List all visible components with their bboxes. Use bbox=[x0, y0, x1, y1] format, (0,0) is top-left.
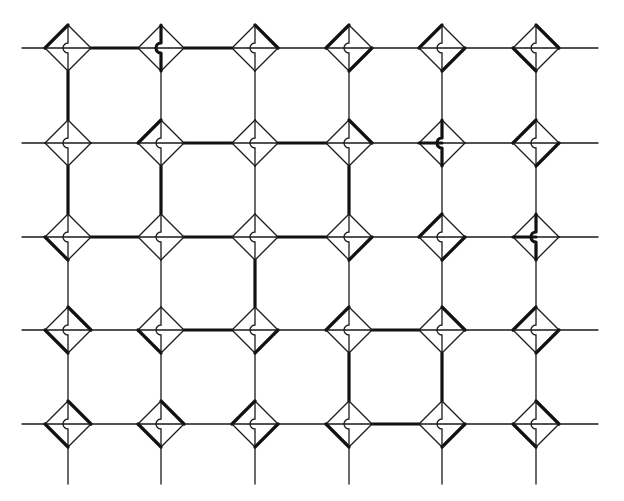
diamond-edge-br bbox=[536, 424, 559, 447]
diamond-edge-tr bbox=[68, 25, 91, 48]
diamond-edge-br bbox=[536, 237, 559, 260]
diamond-edge-br bbox=[349, 424, 372, 447]
lattice-svg bbox=[0, 0, 624, 501]
diamond-edge-br bbox=[68, 143, 91, 166]
diamond-edge-br bbox=[349, 330, 372, 353]
diamond-edge-br bbox=[68, 424, 91, 447]
diamond-edge-tr bbox=[68, 214, 91, 237]
diamond-edge-br bbox=[442, 424, 465, 447]
diamond-edge-tr bbox=[536, 214, 559, 237]
diamond-edge-br bbox=[68, 330, 91, 353]
diamond-edge-tr bbox=[536, 307, 559, 330]
diamond-edge-br bbox=[442, 48, 465, 71]
diamond-edge-tr bbox=[68, 401, 91, 424]
diamond-edge-tr bbox=[442, 25, 465, 48]
diamond-edge-br bbox=[536, 143, 559, 166]
diamond-edge-tr bbox=[442, 214, 465, 237]
diamond-edge-br bbox=[161, 424, 184, 447]
diamond-edge-tr bbox=[255, 120, 278, 143]
diamond-edge-tr bbox=[349, 120, 372, 143]
diamond-edge-br bbox=[442, 143, 465, 166]
diamond-edge-br bbox=[536, 48, 559, 71]
diamond-edge-tr bbox=[349, 307, 372, 330]
diamond-edge-tr bbox=[68, 120, 91, 143]
diamond-edge-tr bbox=[255, 214, 278, 237]
diamond-edge-br bbox=[442, 237, 465, 260]
diamond-edge-tr bbox=[442, 120, 465, 143]
diamond-edge-tr bbox=[536, 120, 559, 143]
diamond-edge-tr bbox=[255, 401, 278, 424]
diamond-edge-tr bbox=[161, 307, 184, 330]
diamond-edge-br bbox=[68, 48, 91, 71]
diamond-edge-tr bbox=[255, 25, 278, 48]
diamond-edge-br bbox=[161, 330, 184, 353]
diamond-edge-tr bbox=[161, 401, 184, 424]
diamond-edge-tr bbox=[536, 25, 559, 48]
diamond-edge-tr bbox=[161, 25, 184, 48]
diamond-edge-tr bbox=[255, 307, 278, 330]
diamond-edge-tr bbox=[442, 401, 465, 424]
diamond-edge-br bbox=[536, 330, 559, 353]
diamond-edge-br bbox=[255, 237, 278, 260]
diamond-edge-br bbox=[255, 424, 278, 447]
diamond-edge-tr bbox=[161, 214, 184, 237]
diamond-edge-tr bbox=[349, 25, 372, 48]
diamond-edge-br bbox=[349, 48, 372, 71]
diamond-edge-br bbox=[255, 143, 278, 166]
diamond-edge-br bbox=[255, 48, 278, 71]
diamond-edge-br bbox=[161, 48, 184, 71]
diamond-edge-br bbox=[349, 237, 372, 260]
diamond-edge-tr bbox=[68, 307, 91, 330]
diamond-edge-br bbox=[349, 143, 372, 166]
switch-lattice-diagram bbox=[0, 0, 624, 501]
diamond-edge-br bbox=[68, 237, 91, 260]
diamond-edge-br bbox=[255, 330, 278, 353]
diamond-edge-tr bbox=[161, 120, 184, 143]
diamond-edge-tr bbox=[442, 307, 465, 330]
diamond-edge-br bbox=[161, 143, 184, 166]
diamond-edge-tr bbox=[349, 214, 372, 237]
diamond-edge-br bbox=[161, 237, 184, 260]
diamond-edge-tr bbox=[349, 401, 372, 424]
diamond-edge-tr bbox=[536, 401, 559, 424]
diamond-edge-br bbox=[442, 330, 465, 353]
